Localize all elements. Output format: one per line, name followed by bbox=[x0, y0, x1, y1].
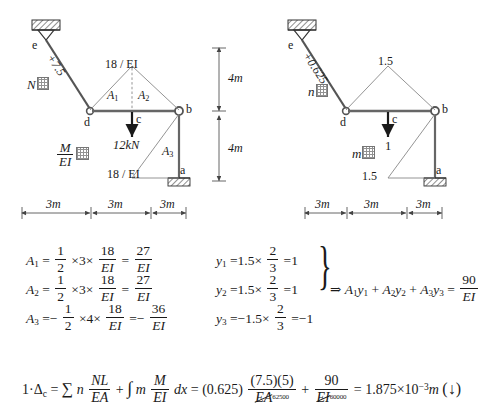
equation-y-3: y3 =−1.5× 23 =−1 bbox=[216, 301, 313, 334]
left-node-label-e: e bbox=[32, 39, 37, 51]
left-node-label-a: a bbox=[180, 164, 185, 176]
n-diagram-symbol: N bbox=[27, 77, 36, 92]
m-ei-diagram-label: M EI bbox=[55, 141, 89, 168]
left-node-label-c: c bbox=[136, 113, 141, 125]
right-node-label-b: b bbox=[442, 103, 448, 115]
area-label-A2: A2 bbox=[138, 89, 149, 103]
left-node-label-b: b bbox=[186, 103, 192, 115]
right-node-label-a: a bbox=[436, 164, 441, 176]
left-moment-diagram-outline bbox=[90, 66, 179, 178]
right-node-label-d: d bbox=[340, 116, 346, 128]
cjk-tu-icon bbox=[362, 146, 375, 159]
right-bottom-ordinate-label: 1.5 bbox=[362, 170, 377, 182]
m-over-ei-fraction: M EI bbox=[57, 141, 73, 168]
right-frame-geometry bbox=[288, 20, 446, 186]
right-dim-label-3: 3m bbox=[416, 198, 431, 210]
cjk-tu-icon bbox=[76, 147, 89, 160]
left-top-ordinate-label: 18 / EI bbox=[105, 58, 138, 70]
direction-arrow: (↓) bbox=[442, 380, 461, 397]
equation-final-deflection: 1·Δc = ∑ n NLEA + ∫ m MEI dx = (0.625) (… bbox=[22, 373, 461, 406]
structural-figure bbox=[0, 0, 486, 415]
left-dim-label-2: 3m bbox=[108, 198, 123, 210]
right-dim-label-1: 3m bbox=[315, 198, 330, 210]
vertical-dim-label-top: 4m bbox=[228, 72, 243, 84]
right-top-ordinate-label: 1.5 bbox=[378, 55, 393, 67]
left-node-label-d: d bbox=[84, 116, 90, 128]
n-diagram-label: N bbox=[27, 77, 49, 91]
equation-sum-result: ⇒ A1y1 + A2y2 + A3y3 = 90EI bbox=[330, 272, 480, 305]
m-diagram-label: m bbox=[352, 146, 375, 160]
left-dim-label-3: 3m bbox=[160, 198, 175, 210]
cjk-tu-icon bbox=[37, 77, 50, 90]
vertical-dimension-line bbox=[212, 48, 226, 181]
left-bottom-ordinate-label: 18 / EI bbox=[107, 168, 140, 180]
right-node-label-e: e bbox=[288, 39, 293, 51]
right-dim-label-2: 3m bbox=[364, 198, 379, 210]
small-n-diagram-label: n bbox=[308, 84, 328, 98]
right-moment-diagram-outline bbox=[346, 66, 435, 178]
struck-EA: EA bbox=[255, 390, 272, 406]
right-node-label-c: c bbox=[392, 113, 397, 125]
vertical-dim-label-bottom: 4m bbox=[228, 142, 243, 154]
struck-EI: EI bbox=[317, 390, 330, 406]
left-dim-label-1: 3m bbox=[46, 198, 61, 210]
area-label-A1: A1 bbox=[107, 89, 118, 103]
equation-area-3: A3 =− 12 ×4× 18EI =− 36EI bbox=[26, 301, 169, 334]
cjk-tu-icon bbox=[316, 84, 329, 97]
unit-load-label: 1 bbox=[385, 140, 391, 153]
area-label-A3: A3 bbox=[162, 145, 173, 159]
applied-load-label: 12kN bbox=[113, 139, 139, 152]
